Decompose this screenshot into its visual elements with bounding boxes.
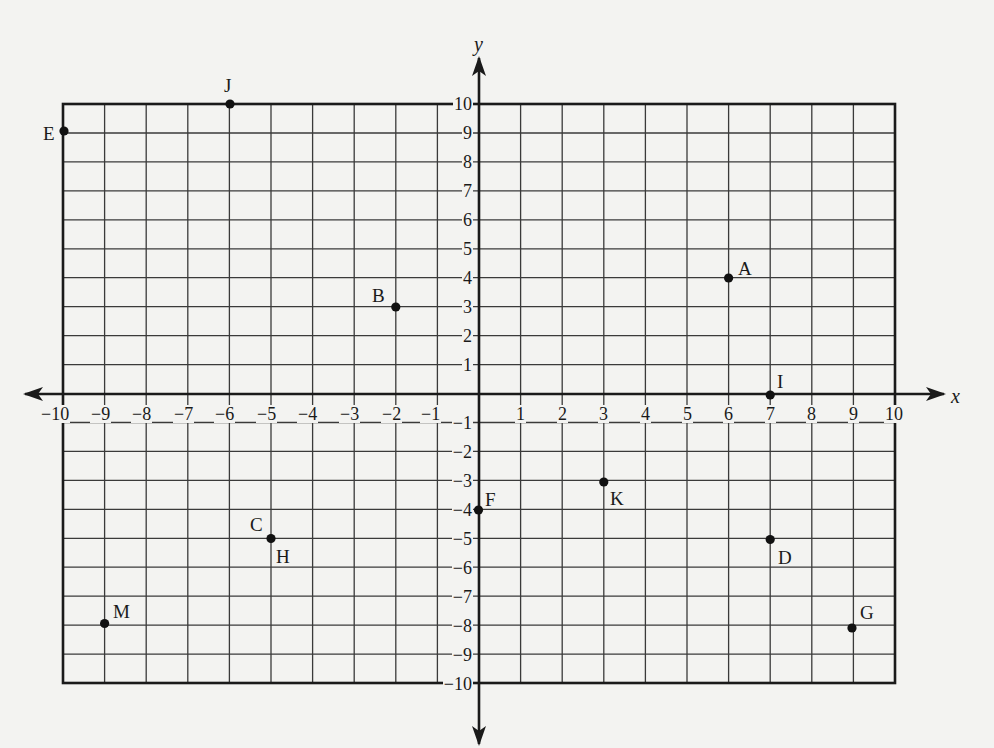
x-tick-label: −5 [256, 405, 277, 423]
point-b [391, 302, 400, 311]
point-label-k: K [610, 489, 624, 508]
x-tick-label: −6 [214, 405, 235, 423]
x-tick-label: −1 [420, 405, 441, 423]
point-label-i: I [777, 372, 783, 391]
x-tick-label: 6 [723, 405, 734, 423]
y-tick-label: 3 [462, 298, 473, 316]
point-label-b: B [372, 286, 385, 305]
x-tick-label: −2 [381, 405, 402, 423]
point-c-h [266, 534, 275, 543]
x-tick-label: −9 [90, 405, 111, 423]
x-tick-label: 3 [598, 405, 609, 423]
x-tick-label: 7 [765, 405, 776, 423]
y-tick-label: −4 [452, 501, 473, 519]
y-tick-label: 6 [462, 211, 473, 229]
data-points [59, 99, 856, 632]
point-j [225, 99, 234, 108]
y-tick-label: 9 [462, 124, 473, 142]
x-tick-label: 4 [640, 405, 651, 423]
x-tick-label: 9 [848, 405, 859, 423]
y-tick-label: −8 [452, 617, 473, 635]
point-label-m: M [113, 602, 130, 621]
point-label-e: E [43, 124, 55, 143]
y-tick-label: 10 [453, 95, 473, 113]
y-tick-label: −6 [452, 559, 473, 577]
y-tick-label: 8 [462, 153, 473, 171]
point-label-h: H [276, 547, 290, 566]
point-label-d: D [778, 548, 792, 567]
y-tick-label: 1 [462, 356, 473, 374]
y-axis-label: y [474, 34, 483, 54]
point-label-a: A [738, 259, 752, 278]
x-tick-label: 8 [806, 405, 817, 423]
point-label-f: F [485, 490, 496, 509]
point-m [100, 619, 109, 628]
y-tick-label: 7 [462, 182, 473, 200]
x-tick-label: 10 [884, 405, 904, 423]
point-k [599, 477, 608, 486]
x-tick-label: −4 [297, 405, 318, 423]
x-tick-label: 1 [515, 405, 526, 423]
x-axis-label: x [951, 386, 960, 406]
point-label-g: G [860, 603, 874, 622]
y-tick-label: −1 [452, 414, 473, 432]
point-a [724, 273, 733, 282]
y-tick-label: −2 [452, 443, 473, 461]
x-tick-label: 5 [682, 405, 693, 423]
y-tick-label: −5 [452, 530, 473, 548]
x-tick-label: −8 [131, 405, 152, 423]
point-d [766, 535, 775, 544]
y-tick-label: −3 [452, 472, 473, 490]
y-tick-label: −9 [452, 646, 473, 664]
y-tick-label: 4 [462, 269, 473, 287]
point-g [847, 623, 856, 632]
point-label-j: J [224, 76, 231, 95]
y-tick-label: −10 [443, 675, 473, 693]
point-label-c: C [250, 515, 263, 534]
coordinate-plane: y x −10 −9 −8 −7 −6 −5 −4 −3 −2 −1 1 2 3… [0, 0, 994, 748]
point-e [59, 126, 68, 135]
x-tick-label: −7 [173, 405, 194, 423]
point-f [474, 505, 483, 514]
y-tick-label: 2 [462, 327, 473, 345]
x-tick-label: −10 [40, 405, 70, 423]
point-i [766, 390, 775, 399]
y-tick-label: −7 [452, 588, 473, 606]
y-tick-label: 5 [462, 240, 473, 258]
plot-area [0, 0, 994, 748]
x-tick-label: −3 [339, 405, 360, 423]
x-tick-label: 2 [557, 405, 568, 423]
